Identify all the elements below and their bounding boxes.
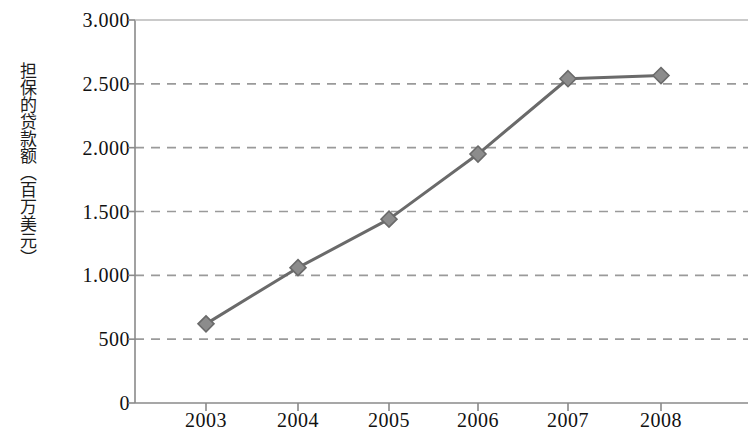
data-point-marker[interactable] [653, 68, 669, 84]
plot-area [0, 0, 748, 434]
gridlines [135, 84, 748, 339]
data-point-marker[interactable] [198, 316, 214, 332]
series-markers [198, 68, 669, 332]
series-line [206, 76, 661, 324]
line-chart: 担保的贷款额（百万美元） 05001.0001.5002.0002.5003.0… [0, 0, 748, 434]
series-line-path [206, 76, 661, 324]
data-point-marker[interactable] [290, 260, 306, 276]
